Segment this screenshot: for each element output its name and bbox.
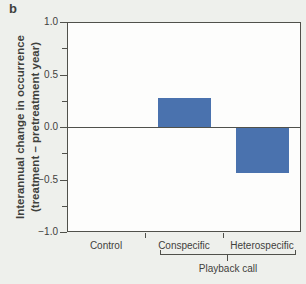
y-tick-label: −1.0: [28, 226, 58, 238]
y-tick-label: 0.5: [28, 69, 58, 81]
category-boundary-tick: [145, 233, 146, 238]
y-minor-tick: [62, 206, 67, 207]
x-tick-label-heterospecific: Heterospecific: [212, 240, 306, 252]
bar-conspecific: [158, 98, 211, 127]
group-bracket-stem: [227, 255, 228, 261]
y-major-tick: [60, 180, 67, 181]
category-boundary-tick: [223, 233, 224, 238]
y-major-tick: [60, 75, 67, 76]
y-major-tick: [60, 127, 67, 128]
y-tick-label: −0.5: [28, 174, 58, 186]
y-major-tick: [60, 22, 67, 23]
y-minor-tick: [62, 153, 67, 154]
y-minor-tick: [62, 101, 67, 102]
group-bracket-label: Playback call: [178, 263, 278, 275]
y-tick-label: 1.0: [28, 16, 58, 28]
y-tick-label: 0.0: [28, 121, 58, 133]
figure-panel: b Interannual change in occurrence (trea…: [0, 0, 306, 284]
y-minor-tick: [62, 48, 67, 49]
y-major-tick: [60, 232, 67, 233]
bar-heterospecific: [236, 128, 289, 173]
y-axis-title-line1: Interannual change in occurrence: [13, 22, 28, 232]
panel-label: b: [9, 1, 17, 16]
